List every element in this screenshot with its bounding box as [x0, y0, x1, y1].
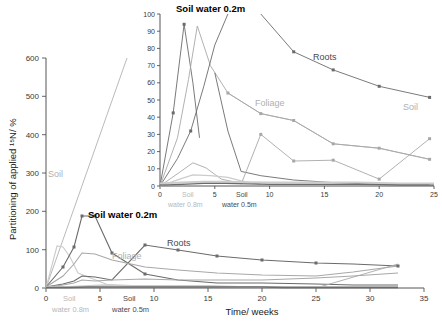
inset-annotation-soil05-line2: water 0.5m	[221, 201, 257, 208]
inset-ytick-40: 40	[147, 114, 155, 121]
inset-ytick-60: 60	[147, 79, 155, 86]
main-line-foliage-08	[46, 253, 398, 287]
inset-xtick-25: 25	[430, 191, 438, 198]
inset-ytick-100: 100	[143, 11, 155, 18]
inset-annotation-soil: Soil	[403, 102, 418, 112]
inset-ytick-10: 10	[147, 165, 155, 172]
main-ytick-400: 400	[26, 131, 40, 140]
main-xtick-20: 20	[258, 294, 267, 303]
main-line-late-rise	[316, 264, 398, 288]
inset-annotation-soil-water-02: Soil water 0.2m	[176, 3, 245, 14]
main-annotation-soil-water-02: Soil water 0.2m	[88, 209, 157, 220]
main-series-markers	[62, 215, 400, 276]
main-annotation-soil08-line1: Soil	[63, 294, 76, 303]
main-xtick-25: 25	[312, 294, 321, 303]
main-xtick-10: 10	[150, 294, 159, 303]
inset-background	[133, 2, 441, 198]
main-xtick-5: 5	[98, 294, 103, 303]
inset-annotation-soil05-line1: Soil	[236, 191, 248, 198]
inset-ytick-50: 50	[147, 97, 155, 104]
main-annotation-foliage: Foliage	[112, 251, 142, 261]
main-annotation-soil08-line2: water 0.8m	[51, 305, 89, 314]
inset-annotation-soil08-line1: Soil	[182, 191, 194, 198]
main-annotation-soil05-line2: water 0.5m	[111, 305, 149, 314]
main-line-baseline-dark	[46, 287, 398, 288]
inset-ytick-90: 90	[147, 28, 155, 35]
main-x-ticks: 0 5 10 15 20 25 30 35	[44, 288, 429, 303]
inset-annotation-foliage: Foliage	[255, 98, 285, 108]
inset-xtick-5: 5	[213, 191, 217, 198]
main-y-axis-title: Partitioning of applied ¹⁵N/ %	[7, 118, 18, 240]
inset-ytick-80: 80	[147, 45, 155, 52]
figure-root: 0 100 200 300 400 500 600 0 5 10 15 20 2…	[0, 0, 442, 321]
inset-xtick-0: 0	[158, 191, 162, 198]
main-ytick-600: 600	[26, 54, 40, 63]
main-xtick-30: 30	[366, 294, 375, 303]
inset-annotation-soil08-line2: water 0.8m	[167, 201, 203, 208]
main-ytick-0: 0	[35, 284, 40, 293]
main-ytick-500: 500	[26, 92, 40, 101]
inset-chart-panel: 0 10 20 30 40 50 60 70 80 90 100 0 5 10 …	[133, 2, 441, 208]
main-x-axis-title: Time/ weeks	[226, 306, 279, 317]
main-annotation-soil: Soil	[48, 169, 63, 179]
inset-xtick-10: 10	[266, 191, 274, 198]
main-xtick-0: 0	[44, 294, 49, 303]
inset-ytick-30: 30	[147, 131, 155, 138]
main-ytick-200: 200	[26, 207, 40, 216]
main-xtick-35: 35	[420, 294, 429, 303]
inset-annotation-roots: Roots	[313, 52, 337, 62]
inset-ytick-0: 0	[151, 183, 155, 190]
main-ytick-300: 300	[26, 169, 40, 178]
inset-xtick-15: 15	[321, 191, 329, 198]
inset-ytick-70: 70	[147, 62, 155, 69]
inset-xtick-20: 20	[375, 191, 383, 198]
main-y-ticks: 0 100 200 300 400 500 600	[26, 54, 46, 293]
main-xtick-15: 15	[204, 294, 213, 303]
main-annotation-soil05-line1: Soil	[123, 294, 136, 303]
main-ytick-100: 100	[26, 246, 40, 255]
main-annotation-roots: Roots	[167, 238, 191, 248]
inset-ytick-20: 20	[147, 148, 155, 155]
